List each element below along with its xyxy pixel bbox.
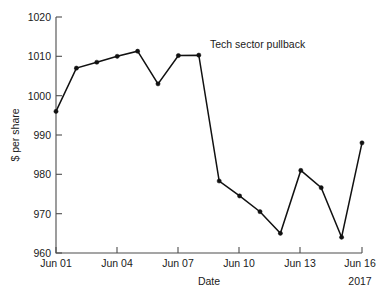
- data-point: [95, 60, 99, 64]
- data-point: [278, 231, 282, 235]
- y-tick-label-1000: 1000: [28, 90, 52, 102]
- x-tick-label-jun-07: Jun 07: [162, 257, 194, 269]
- y-tick-label-970: 970: [33, 208, 51, 220]
- y-tick-label-980: 980: [33, 168, 51, 180]
- data-point: [360, 141, 364, 145]
- data-point: [197, 53, 201, 57]
- line-chart-svg: 1020 1010 1000 990 980 970 960 Jun 01 Ju…: [0, 0, 385, 297]
- x-tick-label-jun-01: Jun 01: [40, 257, 72, 269]
- data-point: [54, 109, 58, 113]
- data-point: [74, 66, 78, 70]
- x-axis-title: Date: [198, 275, 220, 287]
- y-tick-label-990: 990: [33, 129, 51, 141]
- chart-figure: 1020 1010 1000 990 980 970 960 Jun 01 Ju…: [0, 0, 385, 297]
- data-point: [258, 210, 262, 214]
- y-axis-title: $ per share: [9, 108, 21, 161]
- x-tick-label-jun-16: Jun 16: [344, 257, 376, 269]
- data-point: [136, 49, 140, 53]
- y-tick-label-1010: 1010: [28, 50, 52, 62]
- y-tick-label-1020: 1020: [28, 11, 52, 23]
- data-point: [299, 168, 303, 172]
- data-point: [156, 82, 160, 86]
- x-tick-label-jun-10: Jun 10: [223, 257, 255, 269]
- data-point: [217, 179, 221, 183]
- data-point: [176, 53, 180, 57]
- data-point: [115, 54, 119, 58]
- x-tick-label-jun-04: Jun 04: [101, 257, 133, 269]
- data-point: [340, 235, 344, 239]
- annotation-tech-sector-pullback: Tech sector pullback: [210, 38, 306, 50]
- data-point: [319, 186, 323, 190]
- x-axis-year-label: 2017: [348, 275, 372, 287]
- data-point: [238, 194, 242, 198]
- x-tick-label-jun-13: Jun 13: [284, 257, 316, 269]
